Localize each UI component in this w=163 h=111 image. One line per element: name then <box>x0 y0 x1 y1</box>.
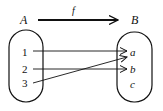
domain-element-1: 1 <box>22 46 28 58</box>
domain-element-2: 2 <box>22 63 28 75</box>
domain-label: A <box>19 13 28 27</box>
codomain-label: B <box>131 13 139 27</box>
codomain-element-c: c <box>130 78 135 90</box>
mapping-arrow-3-a <box>33 57 127 83</box>
domain-element-3: 3 <box>22 77 28 89</box>
mapping-diagram: A B f 1 2 3 a b c <box>0 0 163 111</box>
codomain-element-a: a <box>130 46 136 58</box>
function-label: f <box>72 5 76 16</box>
codomain-element-b: b <box>130 63 136 75</box>
